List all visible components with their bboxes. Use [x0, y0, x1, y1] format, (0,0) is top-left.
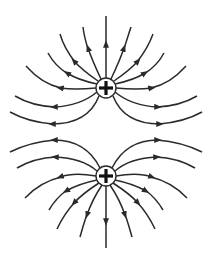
field-line: [116, 88, 152, 89]
field-line: [60, 34, 75, 62]
upper-positive-charge: [96, 78, 116, 98]
field-line: [48, 53, 68, 74]
field-line: [57, 202, 75, 229]
field-line: [54, 140, 100, 168]
field-line: [49, 190, 67, 210]
field-line: [113, 96, 160, 124]
field-line: [144, 53, 164, 74]
field-line: [151, 66, 186, 88]
field-line: [116, 174, 152, 177]
field-line: [157, 140, 202, 152]
field-line: [83, 27, 88, 49]
field-line: [137, 34, 153, 62]
field-line: [60, 88, 96, 89]
field-line: [25, 177, 61, 198]
field-line: [80, 214, 87, 237]
field-line: [159, 112, 202, 124]
lower-charge-field-lines: [10, 140, 202, 248]
field-line: [66, 180, 97, 191]
lower-positive-charge: [96, 166, 116, 186]
field-line: [60, 174, 96, 177]
field-line: [17, 157, 56, 168]
field-line: [10, 112, 53, 124]
field-line: [15, 96, 55, 107]
field-line: [124, 27, 131, 49]
field-line: [115, 157, 157, 171]
field-line: [112, 140, 158, 168]
upper-charge-field-lines: [10, 16, 202, 124]
field-line: [137, 202, 155, 229]
field-line: [115, 180, 146, 191]
field-line: [115, 92, 158, 107]
field-line: [67, 73, 97, 84]
field-line: [115, 73, 145, 84]
field-line: [52, 96, 99, 124]
field-line: [156, 157, 195, 168]
field-line: [125, 214, 132, 237]
field-line: [10, 140, 55, 152]
field-line: [26, 66, 61, 88]
field-line: [55, 157, 97, 171]
field-line: [145, 190, 163, 210]
field-line: [151, 177, 187, 198]
field-line: [54, 92, 97, 107]
field-line: [157, 96, 197, 107]
field-lines-svg: [0, 0, 212, 258]
